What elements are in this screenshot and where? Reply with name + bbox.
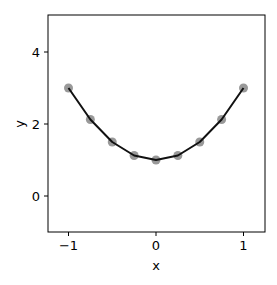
x-tick-label: 0 <box>152 238 160 253</box>
y-axis-ticks: 024 <box>32 45 48 204</box>
y-tick-label: 4 <box>32 45 40 60</box>
x-tick-label: −1 <box>59 238 78 253</box>
axes-frame <box>48 15 265 232</box>
x-axis-label: x <box>152 258 160 273</box>
y-tick-label: 2 <box>32 117 40 132</box>
series-line <box>69 88 244 160</box>
x-axis-ticks: −101 <box>59 232 248 253</box>
plot-area <box>64 84 248 165</box>
y-tick-label: 0 <box>32 189 40 204</box>
line-chart: −101 024 x y <box>0 0 277 285</box>
x-tick-label: 1 <box>239 238 247 253</box>
y-axis-label: y <box>12 120 27 128</box>
